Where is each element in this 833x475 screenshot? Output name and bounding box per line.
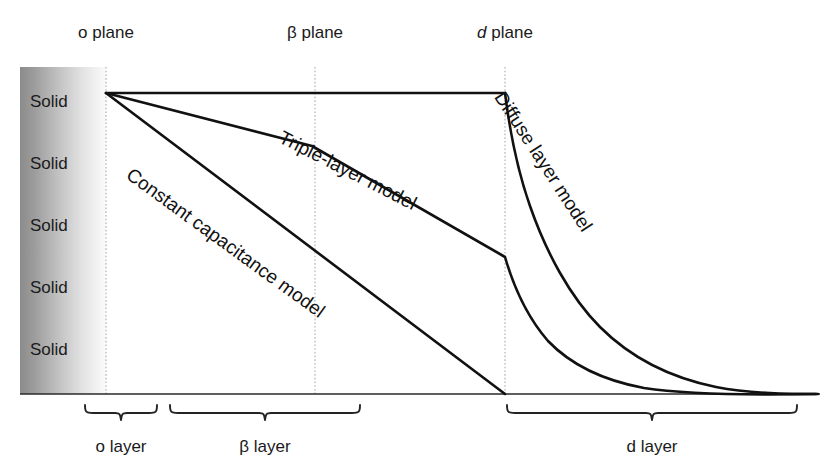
layer-label-d: d layer <box>626 437 677 456</box>
solid-label: Solid <box>30 216 68 235</box>
solid-label: Solid <box>30 154 68 173</box>
curve-label-constant-capacitance: Constant capacitance model <box>123 164 329 322</box>
figure-root: Solid Solid Solid Solid Solid o plane β … <box>0 0 833 475</box>
solid-label: Solid <box>30 278 68 297</box>
layer-label-o: o layer <box>95 437 146 456</box>
brace-o-layer <box>85 405 157 420</box>
curve-label-diffuse-layer: Diffuse layer model <box>490 88 596 236</box>
curve-label-constant-capacitance-group: Constant capacitance model <box>123 164 329 322</box>
layer-label-beta: β layer <box>239 437 291 456</box>
double-layer-model-diagram: Solid Solid Solid Solid Solid o plane β … <box>0 0 833 475</box>
brace-beta-layer <box>170 405 360 420</box>
plane-label-beta: β plane <box>287 23 343 42</box>
plane-label-d: d plane <box>477 23 533 42</box>
solid-label: Solid <box>30 92 68 111</box>
curve-label-triple-layer: Triple-layer model <box>276 126 420 213</box>
curve-label-diffuse-layer-group: Diffuse layer model <box>490 88 596 236</box>
brace-d-layer <box>507 405 797 420</box>
curve-label-triple-layer-group: Triple-layer model <box>276 126 420 213</box>
plane-label-o: o plane <box>78 23 134 42</box>
solid-label: Solid <box>30 340 68 359</box>
